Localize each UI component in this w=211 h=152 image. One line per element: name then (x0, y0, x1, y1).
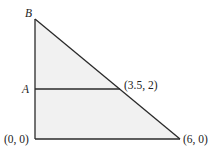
label-a: A (21, 83, 30, 95)
label-intersection: (3.5, 2) (124, 79, 158, 92)
triangle-diagram: B A (3.5, 2) (0, 0) (6, 0) (0, 0, 211, 152)
label-right-vertex: (6, 0) (183, 133, 208, 146)
label-b: B (25, 7, 32, 19)
label-origin: (0, 0) (4, 133, 29, 146)
